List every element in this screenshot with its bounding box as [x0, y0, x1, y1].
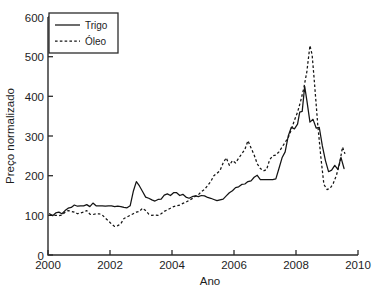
- x-tick-label: 2004: [159, 259, 185, 271]
- chart-figure: 600 500 400 300 200 100 0 2000 2002 2004…: [0, 0, 378, 288]
- price-line-chart: 600 500 400 300 200 100 0 2000 2002 2004…: [0, 0, 378, 288]
- chart-legend: Trigo Óleo: [49, 13, 118, 53]
- x-tick-label: 2010: [345, 259, 371, 271]
- y-tick-label: 500: [25, 51, 44, 63]
- x-tick-label: 2008: [283, 259, 309, 271]
- x-axis-ticks: [48, 250, 358, 255]
- x-tick-label: 2000: [35, 259, 61, 271]
- x-tick-label: 2002: [97, 259, 123, 271]
- y-axis-tick-labels: 600 500 400 300 200 100 0: [25, 12, 44, 262]
- y-tick-label: 300: [25, 131, 44, 143]
- legend-label-oleo: Óleo: [85, 35, 107, 47]
- x-tick-label: 2006: [221, 259, 247, 271]
- series-line-oleo: [50, 46, 345, 227]
- x-axis-title: Ano: [200, 275, 220, 287]
- y-tick-label: 400: [25, 91, 44, 103]
- legend-box: [49, 13, 118, 53]
- x-axis-tick-labels: 2000 2002 2004 2006 2008 2010: [35, 259, 371, 271]
- y-tick-label: 600: [25, 12, 44, 24]
- y-tick-label: 200: [25, 170, 44, 182]
- y-tick-label: 100: [25, 210, 44, 222]
- y-axis-title: Preço normalizado: [4, 88, 16, 184]
- legend-label-trigo: Trigo: [85, 20, 108, 31]
